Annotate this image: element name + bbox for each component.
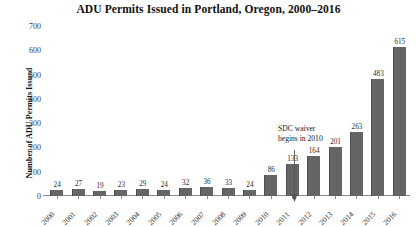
x-axis-tick-label: 2006 <box>167 210 184 227</box>
plot-area: Number of ADU Permits Issued 01002003004… <box>46 26 410 196</box>
x-axis-tick-mark <box>100 196 101 199</box>
x-axis-tick-mark <box>378 196 379 199</box>
x-axis-tick-mark <box>57 196 58 199</box>
bar-value-label: 36 <box>203 178 210 186</box>
x-axis-tick-mark <box>335 196 336 199</box>
x-axis-tick-label: 2000 <box>39 210 56 227</box>
chart-title: ADU Permits Issued in Portland, Oregon, … <box>0 3 417 15</box>
x-axis-tick-label: 2010 <box>253 210 270 227</box>
bar-value-label: 164 <box>309 147 320 155</box>
bar: 164 <box>307 156 320 196</box>
x-axis-tick-mark <box>164 196 165 199</box>
y-axis-tick-label: 300 <box>13 119 41 128</box>
bar-value-label: 86 <box>268 166 275 174</box>
x-axis-tick-mark <box>356 196 357 199</box>
x-axis-tick-mark <box>78 196 79 199</box>
x-axis-tick-label: 2009 <box>232 210 249 227</box>
x-axis-tick-label: 2012 <box>296 210 313 227</box>
x-axis-tick-label: 2016 <box>382 210 399 227</box>
x-axis-tick-label: 2013 <box>317 210 334 227</box>
chart-container: ADU Permits Issued in Portland, Oregon, … <box>0 0 417 227</box>
x-axis-tick-mark <box>228 196 229 199</box>
x-axis-tick-mark <box>185 196 186 199</box>
x-axis-tick-mark <box>399 196 400 199</box>
x-axis-tick-label: 2003 <box>103 210 120 227</box>
bar: 36 <box>200 187 213 196</box>
x-axis-tick-label: 2004 <box>125 210 142 227</box>
bar: 483 <box>371 79 384 196</box>
x-axis-tick-label: 2008 <box>210 210 227 227</box>
y-axis-tick-label: 200 <box>13 143 41 152</box>
bar: 29 <box>136 189 149 196</box>
annotation-text: SDC waiver begins in 2010 <box>278 124 323 145</box>
bar-value-label: 23 <box>118 181 125 189</box>
x-axis-tick-mark <box>142 196 143 199</box>
x-axis-tick-mark <box>207 196 208 199</box>
y-axis-tick-label: 100 <box>13 167 41 176</box>
y-axis-tick-label: 400 <box>13 94 41 103</box>
bar: 615 <box>393 47 406 196</box>
x-axis-tick-mark <box>271 196 272 199</box>
bar-value-label: 24 <box>246 181 253 189</box>
x-axis-tick-label: 2011 <box>275 210 292 227</box>
bar-value-label: 33 <box>225 179 232 187</box>
y-axis-tick-label: 600 <box>13 46 41 55</box>
bar: 32 <box>179 188 192 196</box>
bar-value-label: 29 <box>139 180 146 188</box>
bar-value-label: 27 <box>75 180 82 188</box>
x-axis-tick-mark <box>121 196 122 199</box>
bar: 86 <box>264 175 277 196</box>
bar-value-label: 263 <box>352 123 363 131</box>
bar-value-label: 24 <box>161 181 168 189</box>
x-axis-tick-mark <box>249 196 250 199</box>
y-axis-tick-label: 700 <box>13 22 41 31</box>
bar-value-label: 32 <box>182 179 189 187</box>
x-axis-tick-label: 2002 <box>82 210 99 227</box>
bar-value-label: 24 <box>54 181 61 189</box>
x-axis-tick-label: 2014 <box>339 210 356 227</box>
bar-value-label: 615 <box>394 38 405 46</box>
annotation-line-2: begins in 2010 <box>278 134 323 144</box>
down-arrow-icon <box>290 150 299 202</box>
bar: 201 <box>329 147 342 196</box>
y-axis-tick-label: 0 <box>13 192 41 201</box>
x-axis-tick-mark <box>314 196 315 199</box>
x-axis-tick-label: 2001 <box>60 210 77 227</box>
bar: 33 <box>222 188 235 196</box>
y-axis-tick-label: 500 <box>13 70 41 79</box>
x-axis-tick-label: 2005 <box>146 210 163 227</box>
annotation-line-1: SDC waiver <box>278 124 323 134</box>
x-axis-tick-label: 2015 <box>360 210 377 227</box>
bar: 263 <box>350 132 363 196</box>
x-axis-tick-label: 2007 <box>189 210 206 227</box>
bar-value-label: 201 <box>330 138 341 146</box>
bar-value-label: 483 <box>373 70 384 78</box>
bar-value-label: 19 <box>96 182 103 190</box>
